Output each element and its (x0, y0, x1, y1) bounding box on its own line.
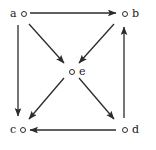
node-d: d (122, 124, 139, 135)
node-a-label: a (10, 8, 17, 19)
edge-b-to-e (79, 24, 114, 63)
node-e-marker-icon (69, 69, 75, 75)
edge-e-to-d (79, 78, 114, 119)
node-c: c (10, 124, 26, 135)
edge-a-to-e (29, 24, 64, 63)
node-e: e (69, 66, 86, 77)
node-d-marker-icon (122, 127, 128, 133)
node-a-marker-icon (21, 11, 27, 17)
node-b-label: b (132, 8, 139, 19)
node-b: b (122, 8, 139, 19)
node-e-label: e (79, 66, 86, 77)
edge-e-to-c (29, 78, 64, 119)
node-b-marker-icon (122, 11, 128, 17)
node-c-marker-icon (20, 127, 26, 133)
node-d-label: d (132, 124, 139, 135)
graph-diagram: a b c d e (0, 0, 156, 150)
node-c-label: c (10, 124, 16, 135)
node-a: a (10, 8, 27, 19)
